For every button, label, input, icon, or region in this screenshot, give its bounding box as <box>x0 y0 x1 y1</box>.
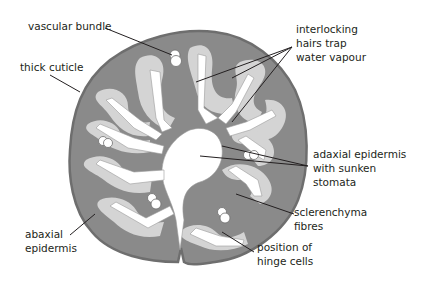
label-thick-cuticle: thick cuticle <box>20 60 84 74</box>
label-vascular-bundle: vascular bundle <box>28 19 112 33</box>
label-interlocking-hairs: interlocking hairs trap water vapour <box>296 22 366 64</box>
label-hinge-cells: position of hinge cells <box>257 240 313 268</box>
label-abaxial-epidermis: abaxial epidermis <box>25 227 77 255</box>
label-sclerenchyma-fibres: sclerenchyma fibres <box>294 205 367 233</box>
label-adaxial-epidermis: adaxial epidermis with sunken stomata <box>313 147 406 189</box>
